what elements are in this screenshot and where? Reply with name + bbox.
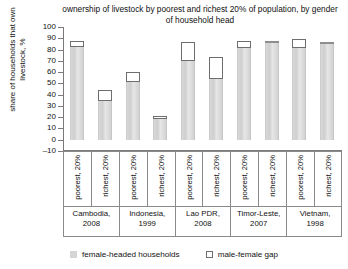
group-year: 2007 xyxy=(250,219,267,229)
chart-title: ownership of livestock by poorest and ri… xyxy=(58,4,342,25)
bar-male-female-gap xyxy=(209,57,223,78)
bar-female-headed xyxy=(209,79,223,140)
bar-group xyxy=(70,27,84,151)
category-axis-table: poorest, 20%richest, 20%poorest, 20%rich… xyxy=(63,151,342,237)
category-column: poorest, 20% xyxy=(176,152,204,206)
bar-group xyxy=(126,27,140,151)
category-column: richest, 20% xyxy=(148,152,176,206)
y-axis-tick-label: –10 xyxy=(6,147,56,155)
bar-male-female-gap xyxy=(70,41,84,48)
category-label: poorest, 20% xyxy=(128,155,140,203)
y-axis-tick-label: 50 xyxy=(6,79,56,87)
group-country-name: Indonesia, xyxy=(129,209,165,219)
y-axis-tick xyxy=(58,106,63,107)
legend-filled-square-icon xyxy=(70,251,77,258)
bar-female-headed xyxy=(70,47,84,139)
y-axis-tick xyxy=(58,27,63,28)
plot-area xyxy=(63,27,341,151)
category-column: poorest, 20% xyxy=(64,152,92,206)
group-year: 2008 xyxy=(194,219,211,229)
y-axis-tick xyxy=(58,72,63,73)
bar-group xyxy=(181,27,195,151)
chart-figure: ownership of livestock by poorest and ri… xyxy=(0,0,348,269)
category-column: poorest, 20% xyxy=(231,152,259,206)
y-axis-tick-label: 20 xyxy=(6,113,56,121)
bar-male-female-gap xyxy=(126,72,140,82)
chart-legend: female-headed householdsmale-female gap xyxy=(0,245,348,263)
bar-group xyxy=(237,27,251,151)
group-label-cell: Indonesia,1999 xyxy=(120,207,176,237)
bar-male-female-gap xyxy=(265,41,279,44)
y-axis-tick xyxy=(58,151,63,152)
bar-female-headed xyxy=(126,82,140,139)
y-axis-tick-label: 10 xyxy=(6,124,56,132)
y-axis-tick xyxy=(58,83,63,84)
bar-group xyxy=(265,27,279,151)
category-column: richest, 20% xyxy=(259,152,287,206)
bar-female-headed xyxy=(181,61,195,140)
y-axis-tick xyxy=(58,61,63,62)
y-axis-tick-label: 80 xyxy=(6,46,56,54)
category-label: poorest, 20% xyxy=(184,155,196,203)
bar-group xyxy=(292,27,306,151)
legend-label: male-female gap xyxy=(218,250,278,259)
category-column: poorest, 20% xyxy=(287,152,315,206)
category-label: poorest, 20% xyxy=(295,155,307,203)
group-country-name: Vietnam, xyxy=(300,209,331,219)
legend-outline-square-icon xyxy=(206,251,213,258)
group-label-cell: Cambodia,2008 xyxy=(64,207,120,237)
y-axis-tick xyxy=(58,38,63,39)
category-label: poorest, 20% xyxy=(239,155,251,203)
category-column: poorest, 20% xyxy=(120,152,148,206)
group-country-name: Lao PDR, xyxy=(186,209,220,219)
y-axis-tick-label: 30 xyxy=(6,102,56,110)
bar-group xyxy=(209,27,223,151)
category-column: richest, 20% xyxy=(315,152,343,206)
category-label: poorest, 20% xyxy=(72,155,84,203)
group-year: 2008 xyxy=(83,219,100,229)
y-axis-tick-label: 60 xyxy=(6,68,56,76)
group-year: 1999 xyxy=(139,219,156,229)
category-label: richest, 20% xyxy=(211,155,223,203)
category-label: richest, 20% xyxy=(267,155,279,203)
y-axis-tick xyxy=(58,50,63,51)
bar-male-female-gap xyxy=(98,90,112,101)
category-label: richest, 20% xyxy=(156,155,168,203)
group-country-name: Timor-Leste, xyxy=(237,209,280,219)
y-axis-tick-label: 0 xyxy=(6,136,56,144)
y-axis-tick-label: 40 xyxy=(6,91,56,99)
y-axis-tick xyxy=(58,128,63,129)
bar-male-female-gap xyxy=(292,39,306,48)
group-country-name: Cambodia, xyxy=(73,209,111,219)
bar-female-headed xyxy=(320,44,334,140)
category-label: richest, 20% xyxy=(323,155,335,203)
group-year: 1998 xyxy=(306,219,323,229)
bar-female-headed xyxy=(153,119,167,139)
legend-item: female-headed households xyxy=(70,250,180,259)
bar-male-female-gap xyxy=(153,116,167,119)
y-axis-tick-label: 100 xyxy=(6,23,56,31)
legend-label: female-headed households xyxy=(82,250,180,259)
y-axis-tick-labels: 1009080706050403020100–10 xyxy=(3,0,56,269)
y-axis-tick-label: 90 xyxy=(6,34,56,42)
bar-group xyxy=(320,27,334,151)
group-label-cell: Vietnam,1998 xyxy=(287,207,343,237)
group-label-cell: Timor-Leste,2007 xyxy=(231,207,287,237)
group-label-cell: Lao PDR,2008 xyxy=(176,207,232,237)
bar-male-female-gap xyxy=(320,42,334,45)
bar-female-headed xyxy=(292,48,306,139)
bar-group xyxy=(98,27,112,151)
category-label: richest, 20% xyxy=(100,155,112,203)
bar-female-headed xyxy=(265,43,279,140)
bar-female-headed xyxy=(237,48,251,139)
legend-item: male-female gap xyxy=(206,250,278,259)
category-column: richest, 20% xyxy=(204,152,232,206)
y-axis-tick xyxy=(58,95,63,96)
y-axis-tick-label: 70 xyxy=(6,57,56,65)
category-column: richest, 20% xyxy=(92,152,120,206)
bar-male-female-gap xyxy=(181,42,195,61)
bar-group xyxy=(153,27,167,151)
y-axis-tick xyxy=(58,117,63,118)
y-axis-tick xyxy=(58,140,63,141)
bar-male-female-gap xyxy=(237,41,251,49)
